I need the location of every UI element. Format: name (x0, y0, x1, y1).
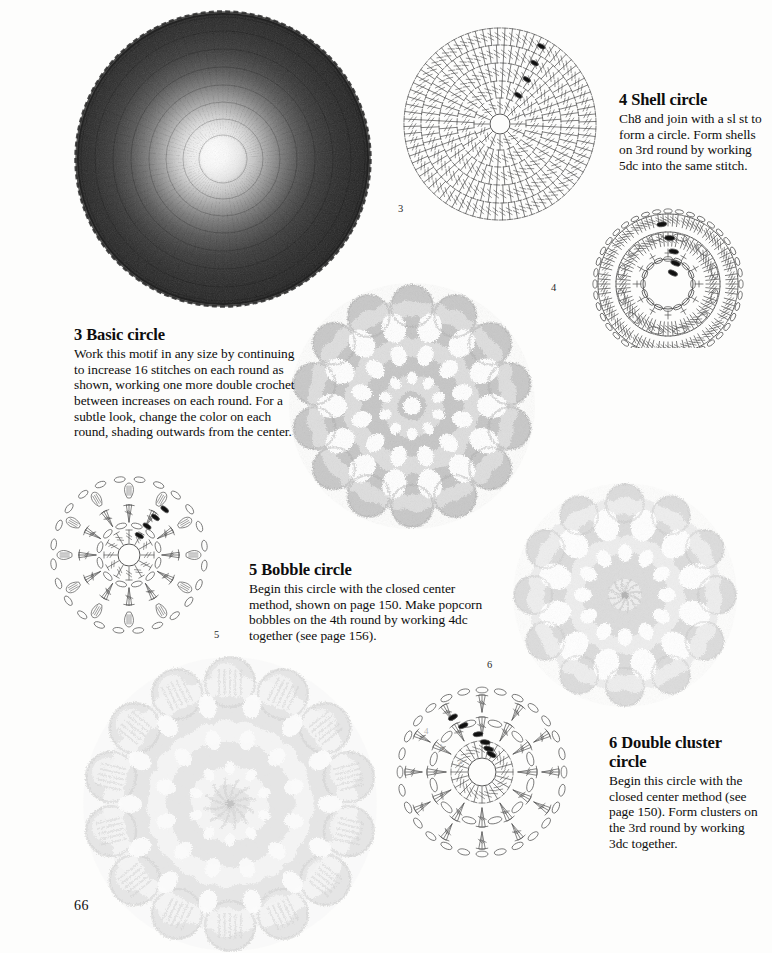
svg-text:2: 2 (458, 756, 463, 766)
section-double-cluster-circle: 6 Double cluster circle Begin this circl… (609, 733, 761, 851)
shell-circle-photo (287, 278, 537, 534)
bobble-circle-photo (82, 656, 378, 952)
section-basic-circle: 3 Basic circle Work this motif in any si… (74, 325, 306, 440)
section-bobble-circle: 5 Bobble circle Begin this circle with t… (249, 560, 496, 644)
section-shell-circle: 4 Shell circle Ch8 and join with a sl st… (619, 90, 769, 174)
body-shell-circle: Ch8 and join with a sl st to form a circ… (619, 111, 769, 173)
diagram-label-6: 6 (487, 659, 492, 670)
diagram-label-3: 3 (398, 203, 403, 214)
basic-circle-photo (72, 8, 374, 310)
double-cluster-circle-diagram: 234 (382, 668, 582, 864)
svg-text:4: 4 (424, 726, 429, 736)
heading-shell-circle: 4 Shell circle (619, 90, 769, 109)
book-page: 3 4 Shell circle Ch8 and join with a sl … (0, 0, 772, 953)
body-basic-circle: Work this motif in any size by continuin… (74, 346, 306, 440)
body-double-cluster-circle: Begin this circle with the closed center… (609, 773, 761, 851)
basic-circle-diagram (400, 24, 600, 224)
body-bobble-circle: Begin this circle with the closed center… (249, 581, 496, 643)
page-number: 66 (74, 898, 89, 914)
diagram-label-4: 4 (551, 282, 556, 293)
heading-basic-circle: 3 Basic circle (74, 325, 306, 344)
shell-circle-diagram (564, 198, 772, 348)
heading-bobble-circle: 5 Bobble circle (249, 560, 496, 579)
svg-text:3: 3 (438, 742, 443, 752)
bobble-circle-diagram (36, 462, 222, 648)
diagram-label-5: 5 (214, 629, 219, 640)
heading-double-cluster-circle: 6 Double cluster circle (609, 733, 761, 771)
